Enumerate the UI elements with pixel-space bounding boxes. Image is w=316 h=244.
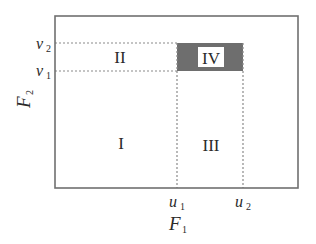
y-tick-v1: v 1: [36, 62, 51, 81]
y-axis-label-sub: 2: [24, 90, 35, 95]
x-tick-u1: u 1: [169, 193, 185, 212]
region-i-label: I: [118, 134, 124, 153]
y-tick-v2-sub: 2: [46, 43, 51, 54]
x-tick-u2: u 2: [235, 193, 251, 212]
x-tick-u1-sub: 1: [180, 201, 185, 212]
x-tick-u2-sub: 2: [246, 201, 251, 212]
x-tick-u2-name: u: [235, 193, 243, 210]
plot-frame: [55, 16, 298, 188]
y-axis-label: F 2: [13, 90, 35, 109]
x-axis-label-sub: 1: [182, 224, 187, 235]
y-tick-v1-sub: 1: [46, 70, 51, 81]
region-iv-label: IV: [202, 49, 221, 68]
y-axis-label-name: F: [13, 96, 34, 109]
y-tick-v1-name: v: [36, 62, 44, 79]
y-tick-v2-name: v: [36, 35, 44, 52]
x-axis-label-name: F: [168, 213, 181, 234]
x-tick-u1-name: u: [169, 193, 177, 210]
y-tick-v2: v 2: [36, 35, 51, 54]
region-iii-label: III: [203, 136, 220, 155]
x-axis-label: F 1: [168, 213, 187, 235]
region-diagram: II I III IV v 2 v 1 u 1 u 2 F 1 F 2: [0, 0, 316, 244]
region-ii-label: II: [114, 48, 126, 67]
